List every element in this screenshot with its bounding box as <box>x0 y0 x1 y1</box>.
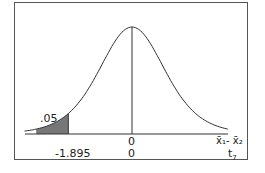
axis-label-t-sub: 7 <box>232 154 236 162</box>
center-label-t: 0 <box>128 148 135 159</box>
area-label: .05 <box>40 113 58 124</box>
critical-value-label: -1.895 <box>55 148 90 159</box>
axis-label-mean-diff: x̄₁- x̄₂ <box>216 136 243 146</box>
axis-label-t: t7 <box>228 148 237 162</box>
center-label-mean-diff: 0 <box>128 136 135 147</box>
